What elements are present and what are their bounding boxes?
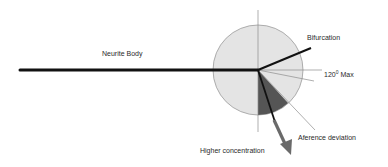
higher-concentration-arrow-icon bbox=[274, 120, 292, 155]
bifurcation-label: Bifurcation bbox=[307, 34, 340, 41]
max-angle-suffix: Max bbox=[338, 71, 353, 78]
max-angle-value: 120 bbox=[324, 71, 336, 78]
neurite-body-label: Neurite Body bbox=[102, 50, 142, 57]
afference-deviation-label: Aference deviation bbox=[298, 134, 356, 141]
neurite-growth-diagram bbox=[0, 0, 388, 167]
higher-concentration-label: Higher concentration bbox=[200, 147, 265, 154]
max-angle-label: 1200 Max bbox=[324, 70, 354, 78]
